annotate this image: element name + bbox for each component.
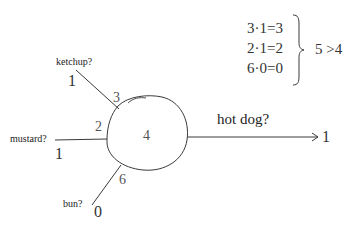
neuron-threshold: 4 xyxy=(143,129,150,143)
ketchup-label: ketchup? xyxy=(56,57,92,67)
perceptron-diagram xyxy=(0,0,354,227)
mustard-weight: 2 xyxy=(95,120,102,134)
computation-lines: 3·1=3 2·1=2 6·0=0 xyxy=(247,18,283,78)
right-brace-icon xyxy=(293,15,304,85)
bun-label: bun? xyxy=(63,199,82,209)
mustard-edge xyxy=(55,139,107,140)
bun-value: 0 xyxy=(94,204,102,220)
mustard-label: mustard? xyxy=(10,134,47,144)
mustard-value: 1 xyxy=(55,146,63,162)
ketchup-value: 1 xyxy=(68,73,76,89)
computation-line-ketchup: 3·1=3 xyxy=(247,18,283,38)
computation-line-bun: 6·0=0 xyxy=(247,58,283,78)
ketchup-weight: 3 xyxy=(113,91,120,105)
computation-line-mustard: 2·1=2 xyxy=(247,38,283,58)
bun-weight: 6 xyxy=(119,173,126,187)
bun-edge xyxy=(92,165,121,205)
comparison-result: 5 >4 xyxy=(315,42,342,57)
output-value: 1 xyxy=(322,129,330,145)
output-label: hot dog? xyxy=(217,112,269,127)
